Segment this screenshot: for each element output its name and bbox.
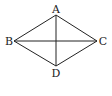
- vertex-label-d: D: [52, 67, 61, 80]
- vertex-label-c: C: [99, 35, 107, 48]
- edge-cd: [56, 41, 97, 66]
- edge-ac: [56, 15, 97, 41]
- rhombus-diagram: A B C D: [0, 0, 112, 96]
- edge-bd: [14, 41, 56, 66]
- vertex-label-a: A: [51, 3, 61, 16]
- edge-ab: [14, 15, 56, 41]
- vertex-label-b: B: [5, 35, 13, 48]
